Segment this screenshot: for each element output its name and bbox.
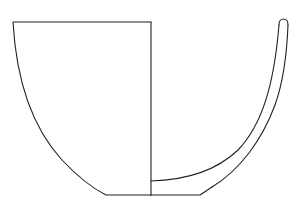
vessel-drawing (0, 0, 303, 203)
rim (279, 19, 288, 25)
exterior-outline (13, 22, 151, 195)
section-inner-wall (151, 25, 279, 181)
base-line (151, 187, 212, 195)
